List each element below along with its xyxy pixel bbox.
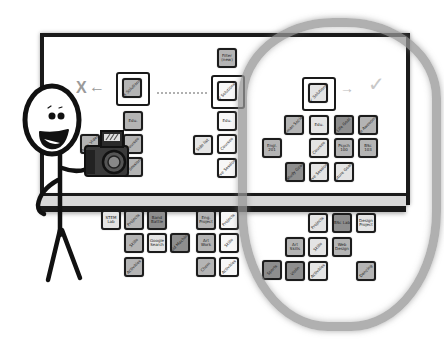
illustration-scene: X ← X Solutions Edu. Courses Life Sessio… (0, 0, 444, 339)
stick-figure (25, 86, 95, 280)
camera-icon (85, 131, 128, 176)
stick-figure-with-camera (0, 0, 444, 339)
